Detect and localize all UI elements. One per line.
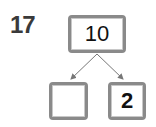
arrow-left-icon <box>71 54 97 79</box>
arrow-right-icon <box>97 54 123 79</box>
known-part-value: 2 <box>121 88 133 114</box>
missing-part-box[interactable] <box>49 82 88 120</box>
known-part-box: 2 <box>108 82 146 120</box>
